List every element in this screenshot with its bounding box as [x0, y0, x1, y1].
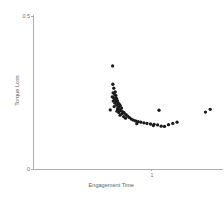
data-point: [163, 125, 166, 128]
data-point: [160, 125, 163, 128]
data-point: [209, 108, 212, 111]
data-point: [152, 124, 155, 127]
data-point: [113, 105, 116, 108]
data-point: [139, 121, 142, 124]
data-point: [167, 123, 170, 126]
data-point: [171, 122, 174, 125]
data-point: [112, 87, 115, 90]
y-axis-title: Torque Loss: [14, 75, 20, 106]
data-points: [109, 64, 212, 128]
data-point: [204, 110, 207, 113]
y-tick-label-0: 0: [27, 166, 30, 172]
data-point: [156, 123, 159, 126]
x-axis-title: Engagement Time: [89, 182, 134, 188]
data-point: [157, 109, 160, 112]
axes: [34, 15, 224, 169]
data-point: [135, 122, 138, 125]
data-point: [111, 64, 114, 67]
data-point: [124, 117, 127, 120]
data-point: [149, 122, 152, 125]
data-point: [175, 121, 178, 124]
data-point: [111, 83, 114, 86]
data-point: [118, 113, 121, 116]
x-tick-label-0: 1: [150, 172, 153, 178]
y-tick-label-1: 0.5: [22, 13, 30, 19]
scatter-chart: 00.51 Engagement TimeTorque Loss: [0, 0, 224, 199]
data-point: [109, 108, 112, 111]
plot-area: 00.51 Engagement TimeTorque Loss: [0, 0, 224, 199]
data-point: [142, 121, 145, 124]
data-point: [145, 122, 148, 125]
axis-ticks: 00.51: [22, 13, 153, 179]
